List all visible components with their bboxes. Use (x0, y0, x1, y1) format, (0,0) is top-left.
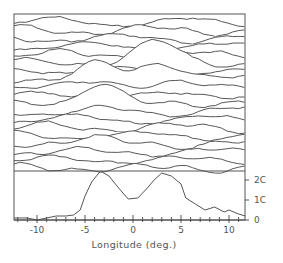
x-axis-label: Longitude (deg.) (91, 239, 176, 250)
integrated-profile-line (14, 171, 245, 220)
x-tick-label: -10 (30, 225, 45, 235)
stacked-traces (14, 17, 245, 174)
x-tick-label: 5 (178, 225, 184, 235)
x-tick-label: 10 (223, 225, 235, 235)
x-tick-label: -5 (81, 225, 90, 235)
y-tick-label: 1C (254, 195, 266, 205)
y-axis-right-ticks: 01C2C (245, 175, 266, 225)
y-tick-label: 2C (254, 175, 266, 185)
y-tick-label: 0 (254, 215, 260, 225)
chart: -10-50510 01C2C Longitude (deg.) (0, 0, 283, 263)
x-tick-label: 0 (130, 225, 136, 235)
